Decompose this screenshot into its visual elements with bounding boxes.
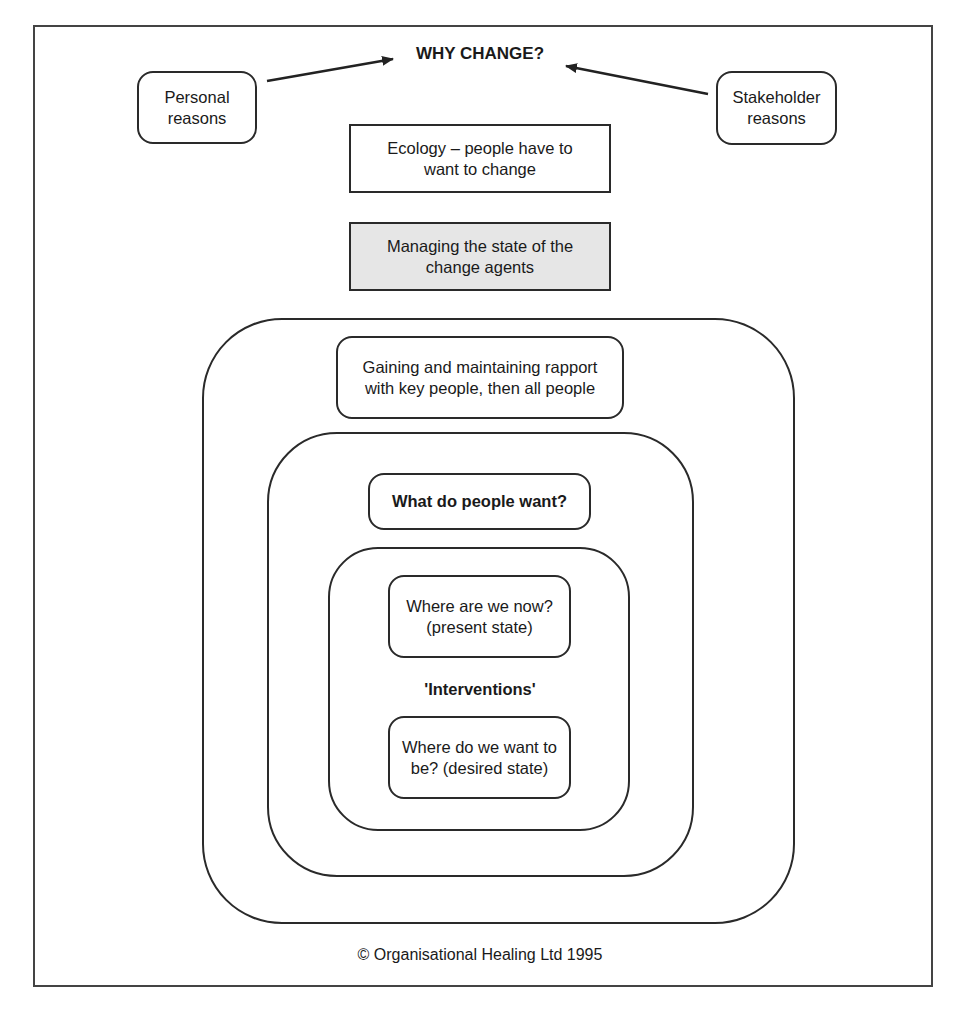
what-people-want-box: What do people want? bbox=[368, 473, 591, 530]
copyright-text: © Organisational Healing Ltd 1995 bbox=[280, 946, 680, 964]
desired-state-label: Where do we want to be? (desired state) bbox=[392, 737, 567, 779]
what-people-want-label: What do people want? bbox=[392, 491, 567, 512]
stakeholder-reasons-label: Stakeholder reasons bbox=[727, 87, 827, 129]
rapport-label: Gaining and maintaining rapport with key… bbox=[350, 357, 610, 399]
interventions-label: 'Interventions' bbox=[380, 680, 580, 699]
personal-reasons-label: Personal reasons bbox=[152, 87, 242, 129]
ecology-label: Ecology – people have to want to change bbox=[370, 138, 590, 180]
stakeholder-reasons-box: Stakeholder reasons bbox=[716, 71, 837, 145]
present-state-box: Where are we now? (present state) bbox=[388, 575, 571, 658]
arrow-personal-to-why bbox=[267, 59, 393, 81]
desired-state-box: Where do we want to be? (desired state) bbox=[388, 716, 571, 799]
ecology-box: Ecology – people have to want to change bbox=[349, 124, 611, 193]
present-state-label: Where are we now? (present state) bbox=[397, 596, 562, 638]
managing-state-label: Managing the state of the change agents bbox=[375, 236, 585, 278]
arrow-stakeholder-to-why bbox=[566, 66, 708, 94]
managing-state-box: Managing the state of the change agents bbox=[349, 222, 611, 291]
personal-reasons-box: Personal reasons bbox=[137, 71, 257, 144]
rapport-box: Gaining and maintaining rapport with key… bbox=[336, 336, 624, 419]
title-why-change: WHY CHANGE? bbox=[380, 44, 580, 64]
